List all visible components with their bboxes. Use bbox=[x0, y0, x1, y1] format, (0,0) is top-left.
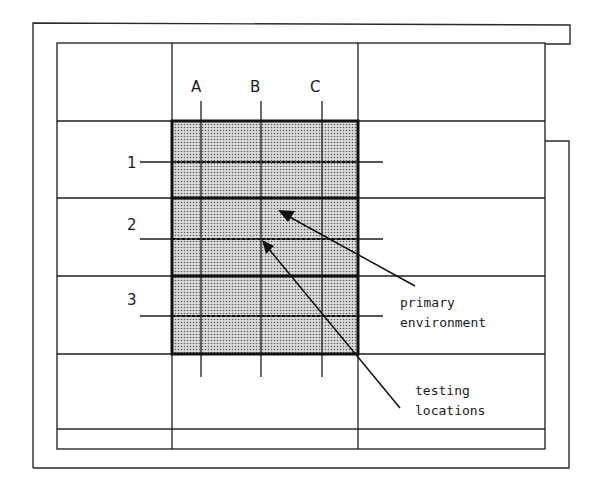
column-label-a: A bbox=[191, 78, 202, 96]
row-label-2: 2 bbox=[127, 216, 137, 234]
primary-environment-label-line1: primary bbox=[400, 295, 455, 310]
row-label-1: 1 bbox=[127, 154, 137, 172]
floor-plan-diagram: A B C 1 2 3 primary environment testing … bbox=[0, 0, 602, 504]
testing-locations-label-line2: locations bbox=[415, 403, 485, 418]
primary-environment-area bbox=[172, 121, 358, 354]
row-label-3: 3 bbox=[127, 291, 137, 309]
column-label-c: C bbox=[310, 78, 320, 96]
testing-locations-label-line1: testing bbox=[415, 383, 470, 398]
column-label-b: B bbox=[250, 78, 260, 96]
primary-environment-label-line2: environment bbox=[400, 315, 486, 330]
